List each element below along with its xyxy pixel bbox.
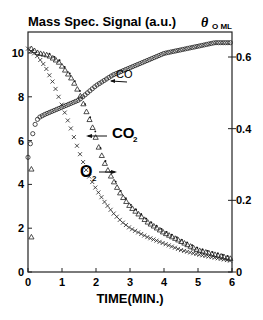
x-tick-label: 2 <box>93 276 99 288</box>
annotation-co: CO <box>116 68 133 80</box>
x-tick-label: 5 <box>195 276 201 288</box>
svg-text:2: 2 <box>133 135 138 144</box>
x-tick-label: 3 <box>127 276 133 288</box>
annotations: CO CO 2 O 2 <box>80 68 138 183</box>
axes: 0123456024681000.20.40.6 <box>12 47 252 288</box>
y-tick-label: 0 <box>18 266 24 278</box>
y-tick-label: 2 <box>18 222 24 234</box>
y-tick-label: 10 <box>12 47 24 59</box>
x-tick-label: 4 <box>161 276 168 288</box>
svg-text:θ: θ <box>201 15 209 30</box>
x-tick-label: 6 <box>229 276 235 288</box>
svg-text:O ML: O ML <box>212 22 232 31</box>
y-right-tick-label: 0.6 <box>236 51 251 63</box>
y-tick-label: 4 <box>18 178 25 190</box>
x-tick-label: 1 <box>59 276 65 288</box>
x-tick-label: 0 <box>25 276 31 288</box>
annotation-co2: CO <box>112 124 135 141</box>
y-right-tick-label: 0.2 <box>236 194 251 206</box>
y-tick-label: 6 <box>18 135 24 147</box>
y-right-tick-label: 0 <box>236 266 242 278</box>
chart-title: Mass Spec. Signal (a.u.) <box>28 14 176 29</box>
svg-text:2: 2 <box>92 174 97 183</box>
x-axis-label: TIME(MIN.) <box>96 291 163 306</box>
annotation-o2: O <box>80 163 92 180</box>
right-axis-label: θ O ML <box>201 15 232 31</box>
y-right-tick-label: 0.4 <box>236 123 252 135</box>
chart: Mass Spec. Signal (a.u.) θ O ML 01234560… <box>0 0 263 320</box>
y-tick-label: 8 <box>18 91 24 103</box>
